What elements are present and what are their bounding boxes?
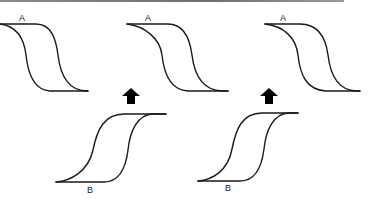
loop-label-b-2: B bbox=[225, 183, 231, 193]
hysteresis-diagram: A A A B B bbox=[0, 0, 368, 211]
loop-a-3 bbox=[265, 24, 360, 91]
loop-b-2 bbox=[198, 113, 298, 181]
loop-label-a-1: A bbox=[19, 13, 25, 23]
loop-label-a-3: A bbox=[280, 13, 286, 23]
top-divider-rule bbox=[0, 0, 344, 2]
loop-a-1 bbox=[0, 24, 88, 91]
up-arrow-icon bbox=[122, 88, 140, 104]
loop-label-b-1: B bbox=[87, 185, 93, 195]
loop-a-2 bbox=[127, 24, 228, 91]
loop-label-a-2: A bbox=[145, 13, 151, 23]
diagram-canvas: A A A B B bbox=[0, 0, 368, 211]
loop-b-1 bbox=[56, 114, 166, 182]
up-arrow-icon bbox=[260, 88, 278, 104]
